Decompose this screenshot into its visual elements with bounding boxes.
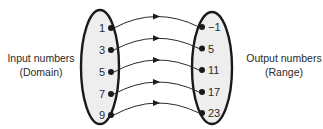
- domain-number: 9: [99, 109, 105, 121]
- range-dot: [199, 67, 205, 73]
- arrowhead-icon: [153, 35, 160, 41]
- domain-dot: [108, 69, 114, 75]
- range-dot: [199, 24, 205, 30]
- range-dot: [199, 89, 205, 95]
- domain-number: 7: [99, 88, 105, 100]
- domain-number: 3: [99, 44, 105, 56]
- domain-dot: [108, 91, 114, 97]
- arrowhead-icon: [153, 57, 160, 63]
- domain-dot: [108, 112, 114, 118]
- arrowhead-icon: [153, 79, 160, 85]
- domain-dot: [108, 25, 114, 31]
- range-number: 17: [208, 86, 220, 98]
- arrowhead-icon: [153, 100, 160, 106]
- mapping-arrows: [114, 16, 199, 115]
- range-number: 11: [208, 64, 219, 76]
- mapping-arrow: [114, 38, 199, 50]
- mapping-arrow: [114, 82, 199, 94]
- domain-number: 5: [99, 66, 105, 78]
- range-number: −1: [208, 21, 221, 33]
- mapping-arrow: [114, 103, 199, 115]
- range-dot: [199, 46, 205, 52]
- range-number: 23: [208, 107, 220, 119]
- range-number: 5: [208, 43, 214, 55]
- mapping-arrow: [114, 16, 199, 28]
- domain-number: 1: [99, 22, 105, 34]
- arrowhead-icon: [153, 14, 160, 20]
- arrowheads: [153, 14, 160, 107]
- mapping-canvas: 1 3 5 7 9 −1 5 11 17 23: [0, 0, 323, 129]
- function-mapping-diagram: Input numbers (Domain) Output numbers (R…: [0, 0, 323, 129]
- range-dot: [199, 110, 205, 116]
- mapping-arrow: [114, 60, 199, 72]
- domain-dot: [108, 47, 114, 53]
